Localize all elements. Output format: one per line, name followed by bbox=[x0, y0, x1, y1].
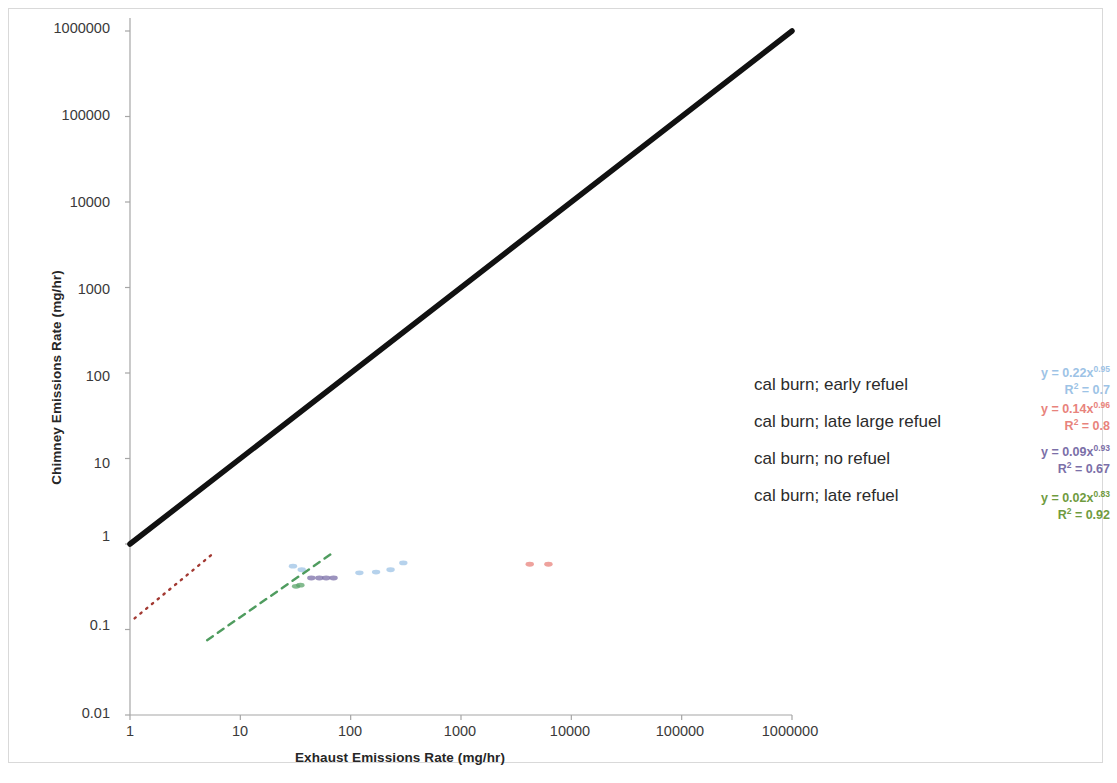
r2-text: R2 = 0.8 bbox=[1018, 417, 1110, 434]
equation-exponent: 0.93 bbox=[1093, 443, 1110, 453]
data-point bbox=[355, 570, 363, 575]
reference-line-1to1 bbox=[130, 31, 792, 544]
legend-item-late-large-refuel: cal burn; late large refuel bbox=[754, 412, 941, 432]
trendline bbox=[207, 552, 333, 640]
legend-item-early-refuel: cal burn; early refuel bbox=[754, 375, 908, 395]
axis-tick-marks bbox=[125, 31, 792, 720]
equation-exponent: 0.96 bbox=[1093, 400, 1110, 410]
r2-text: R2 = 0.67 bbox=[1018, 460, 1110, 477]
equation-exponent: 0.83 bbox=[1093, 489, 1110, 499]
equation-text: y = 0.09x0.93 bbox=[1041, 445, 1110, 459]
data-point bbox=[289, 564, 297, 569]
equation-early-refuel: y = 0.22x0.95 R2 = 0.7 bbox=[1018, 364, 1110, 398]
y-tick-label: 0.01 bbox=[0, 705, 110, 721]
data-point bbox=[399, 561, 407, 566]
r2-text: R2 = 0.7 bbox=[1018, 381, 1110, 398]
y-tick-label: 1000000 bbox=[0, 20, 110, 36]
data-point bbox=[307, 576, 315, 581]
r2-text: R2 = 0.92 bbox=[1018, 506, 1110, 523]
x-tick-label: 1000000 bbox=[730, 723, 850, 739]
x-tick-label: 10000 bbox=[510, 723, 630, 739]
chart-container: 1000000 100000 10000 1000 100 10 1 0.1 0… bbox=[0, 0, 1117, 783]
x-tick-label: 100000 bbox=[620, 723, 740, 739]
equation-text: y = 0.22x0.95 bbox=[1041, 366, 1110, 380]
y-tick-label: 100000 bbox=[0, 107, 110, 123]
data-point bbox=[372, 570, 380, 575]
data-point bbox=[544, 562, 552, 567]
legend-item-no-refuel: cal burn; no refuel bbox=[754, 449, 890, 469]
equation-late-large-refuel: y = 0.14x0.96 R2 = 0.8 bbox=[1018, 400, 1110, 434]
x-tick-label: 1000 bbox=[400, 723, 520, 739]
data-point bbox=[386, 567, 394, 572]
plot-area bbox=[0, 0, 1117, 783]
series-layer bbox=[135, 552, 553, 640]
data-point bbox=[329, 576, 337, 581]
y-tick-label: 10000 bbox=[0, 194, 110, 210]
equation-text: y = 0.14x0.96 bbox=[1041, 402, 1110, 416]
x-axis-title: Exhaust Emissions Rate (mg/hr) bbox=[0, 750, 800, 765]
equation-exponent: 0.95 bbox=[1093, 364, 1110, 374]
data-point bbox=[296, 583, 304, 588]
data-point bbox=[526, 562, 534, 567]
legend-item-late-refuel: cal burn; late refuel bbox=[754, 486, 899, 506]
trendline bbox=[135, 555, 212, 619]
x-tick-label: 1 bbox=[70, 723, 190, 739]
y-tick-label: 0.1 bbox=[0, 617, 110, 633]
equation-text: y = 0.02x0.83 bbox=[1041, 491, 1110, 505]
x-tick-label: 100 bbox=[290, 723, 410, 739]
x-tick-label: 10 bbox=[180, 723, 300, 739]
equation-no-refuel: y = 0.09x0.93 R2 = 0.67 bbox=[1018, 443, 1110, 477]
y-axis-title: Chimney Emissions Rate (mg/hr) bbox=[49, 218, 64, 538]
equation-late-refuel: y = 0.02x0.83 R2 = 0.92 bbox=[1018, 489, 1110, 523]
data-point bbox=[322, 576, 330, 581]
